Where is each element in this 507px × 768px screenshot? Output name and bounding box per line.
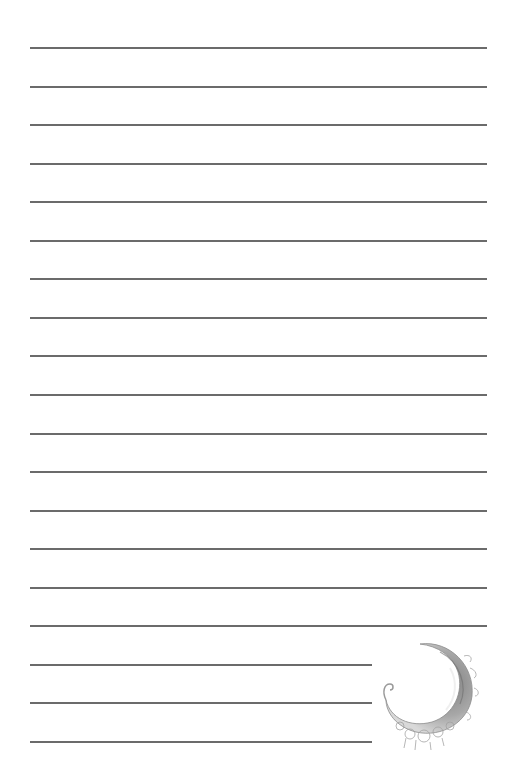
ruled-line [30,702,372,704]
ruled-line [30,664,372,666]
ruled-line [30,394,487,396]
ruled-line [30,124,487,126]
ruled-line [30,587,487,589]
ruled-line [30,278,487,280]
ruled-line [30,433,487,435]
ruled-line [30,47,487,49]
ruled-line [30,355,487,357]
ruled-line [30,317,487,319]
crescent-moon-icon [380,638,480,750]
ruled-line [30,510,487,512]
ruled-line [30,471,487,473]
ruled-line [30,201,487,203]
ruled-line [30,240,487,242]
ruled-line [30,548,487,550]
stationery-page [0,0,507,768]
ruled-line [30,741,372,743]
ruled-line [30,625,487,627]
ruled-line [30,163,487,165]
ruled-line [30,86,487,88]
